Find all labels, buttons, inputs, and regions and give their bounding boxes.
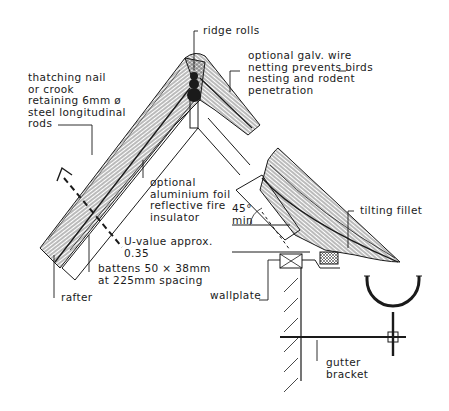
label-wallplate: wallplate bbox=[210, 290, 261, 302]
tilting-fillet bbox=[320, 252, 338, 264]
label-gutter-bracket: gutter bracket bbox=[326, 357, 368, 380]
roof-section-diagram: ridge rolls optional galv. wire netting … bbox=[0, 0, 449, 411]
gutter bbox=[364, 276, 422, 306]
label-foil-insulator: optional aluminium foil reflective fire … bbox=[150, 177, 231, 223]
gutter-bracket bbox=[280, 312, 406, 356]
label-ridge-rolls: ridge rolls bbox=[203, 25, 260, 37]
label-tilting-fillet: tilting fillet bbox=[360, 205, 422, 217]
label-thatching-nail: thatching nail or crook retaining 6mm ø … bbox=[28, 72, 126, 130]
label-u-value: U-value approx. 0.35 bbox=[124, 236, 213, 259]
label-battens: battens 50 × 38mm at 225mm spacing bbox=[98, 263, 211, 286]
label-rafter: rafter bbox=[61, 292, 93, 304]
wall bbox=[284, 268, 301, 392]
label-angle-45-min: 45° min bbox=[232, 203, 253, 226]
label-wire-netting: optional galv. wire netting prevents bir… bbox=[248, 50, 373, 96]
